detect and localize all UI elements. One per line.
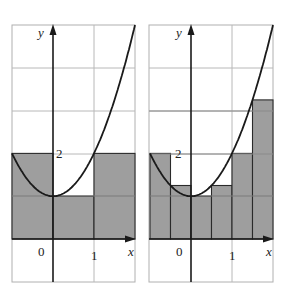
riemann-rectangles	[150, 100, 273, 239]
riemann-rectangle	[191, 196, 212, 239]
left-panel: y x 0 1 2	[12, 24, 136, 282]
x-axis-label: x	[265, 244, 272, 259]
x-tick-label-1: 1	[91, 248, 98, 263]
riemann-rectangle	[212, 186, 233, 240]
origin-label: 0	[176, 244, 183, 259]
y-axis-arrow-icon	[188, 24, 195, 35]
x-tick-label-1: 1	[229, 248, 236, 263]
y-axis-label: y	[174, 25, 182, 40]
riemann-rectangle	[53, 196, 94, 239]
x-axis-label: x	[127, 244, 134, 259]
y-tick-label-2: 2	[175, 146, 182, 161]
right-panel: y x 0 1 2	[149, 24, 274, 282]
riemann-rectangle	[253, 100, 274, 239]
riemann-sum-figure: y x 0 1 2 y x 0 1 2	[0, 0, 285, 288]
y-tick-label-2: 2	[56, 146, 63, 161]
y-axis-arrow-icon	[50, 24, 57, 35]
y-axis-label: y	[36, 25, 44, 40]
origin-label: 0	[38, 244, 45, 259]
